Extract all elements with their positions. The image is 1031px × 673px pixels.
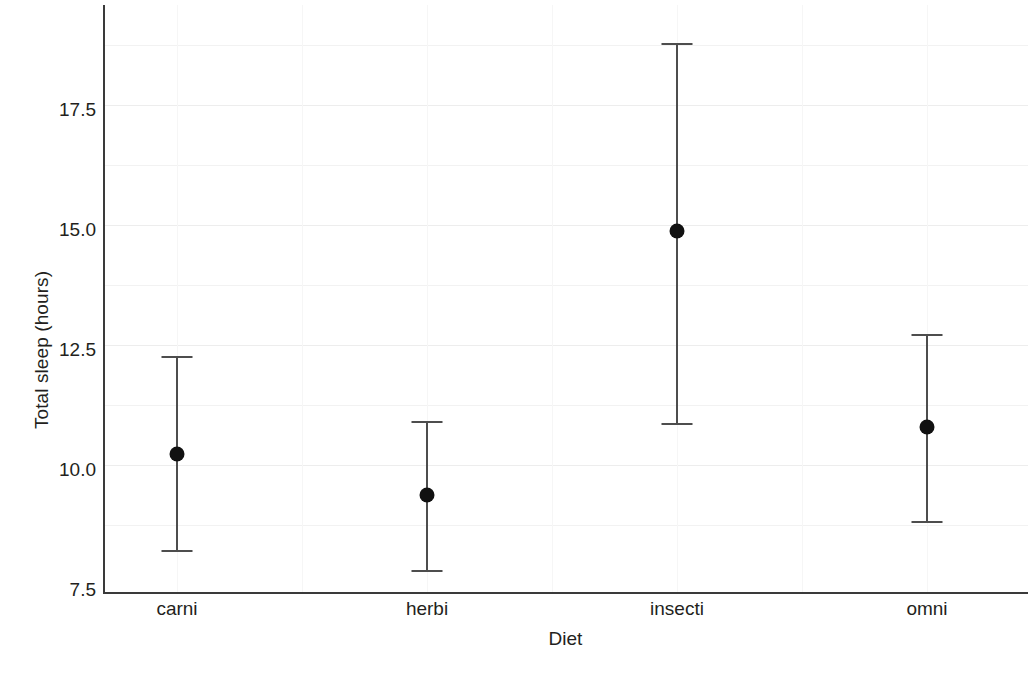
- x-tick-label-omni: omni: [906, 598, 947, 620]
- gridline-vertical: [552, 5, 553, 593]
- errorbar-cap-lower: [662, 423, 693, 425]
- errorbar-herbi: [427, 5, 428, 593]
- y-tick-label: 7.5: [8, 579, 96, 601]
- y-axis-line: [103, 5, 105, 594]
- x-tick-label-herbi: herbi: [406, 598, 448, 620]
- data-point-marker: [670, 224, 685, 239]
- plot-area: [104, 5, 1028, 593]
- data-point-marker: [920, 420, 935, 435]
- errorbar-cap-lower: [912, 521, 943, 523]
- gridline-horizontal: [104, 525, 1028, 526]
- gridline-vertical: [302, 5, 303, 593]
- gridline-vertical: [802, 5, 803, 593]
- y-tick-label: 15.0: [8, 219, 96, 241]
- errorbar-cap-lower: [412, 570, 443, 572]
- x-tick-label-carni: carni: [156, 598, 197, 620]
- gridline-horizontal: [104, 165, 1028, 166]
- errorbar-omni: [927, 5, 928, 593]
- gridline-horizontal: [104, 465, 1028, 466]
- data-point-marker: [170, 447, 185, 462]
- errorbar-insecti: [677, 5, 678, 593]
- x-axis-title: Diet: [103, 628, 1028, 650]
- x-tick-label-insecti: insecti: [650, 598, 704, 620]
- data-point-marker: [420, 488, 435, 503]
- gridline-horizontal: [104, 45, 1028, 46]
- gridline-horizontal: [104, 105, 1028, 106]
- y-tick-label: 12.5: [8, 339, 96, 361]
- gridline-horizontal: [104, 345, 1028, 346]
- errorbar-cap-lower: [162, 550, 193, 552]
- x-axis-line: [103, 592, 1028, 594]
- y-axis-tick-labels: 17.5 15.0 12.5 10.0 7.5: [0, 5, 96, 593]
- y-tick-label: 17.5: [8, 99, 96, 121]
- gridline-horizontal: [104, 225, 1028, 226]
- chart-container: Total sleep (hours) 17.5 15.0 12.5 10.0 …: [0, 0, 1031, 673]
- errorbar-carni: [177, 5, 178, 593]
- y-tick-label: 10.0: [8, 459, 96, 481]
- gridline-horizontal: [104, 405, 1028, 406]
- gridline-horizontal: [104, 285, 1028, 286]
